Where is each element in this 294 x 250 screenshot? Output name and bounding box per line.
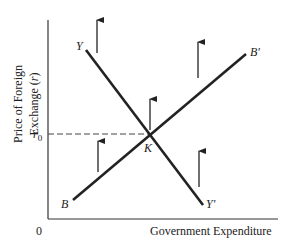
diagram-canvas: Price of Foreign Exchange (r) Government… bbox=[0, 0, 294, 250]
curve-y-end-label: Y′ bbox=[206, 197, 216, 211]
y-axis-label-line1: Price of Foreign bbox=[11, 65, 25, 143]
curve-yy bbox=[86, 50, 203, 205]
intersection-label-k: K bbox=[143, 141, 153, 155]
curve-b-end-label: B′ bbox=[250, 45, 260, 59]
curve-b-start-label: B bbox=[61, 197, 69, 211]
origin-label: 0 bbox=[36, 224, 42, 238]
x-axis-label: Government Expenditure bbox=[150, 224, 272, 238]
curve-y-start-label: Y bbox=[76, 39, 84, 53]
economics-diagram: Price of Foreign Exchange (r) Government… bbox=[0, 0, 294, 250]
curve-bb bbox=[73, 54, 246, 200]
